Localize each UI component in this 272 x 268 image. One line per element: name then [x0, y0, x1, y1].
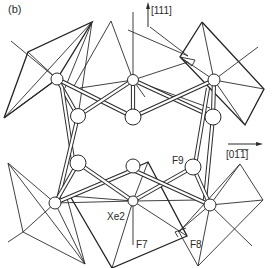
- polyhedron-bottom-right: [175, 164, 263, 266]
- xe-atom-top-right: [208, 74, 220, 86]
- f-atom-bridge-top-right: [205, 109, 221, 125]
- f-atom-bridge-bottom-center: [126, 159, 140, 173]
- polyhedron-top-left: [4, 22, 92, 118]
- axis-011-arrow: [228, 142, 263, 146]
- atom-label-f8: F8: [190, 240, 202, 250]
- panel-label: (b): [8, 4, 21, 15]
- f-atom-bridge-top-center: [125, 109, 141, 125]
- polyhedron-bottom-center: [70, 162, 200, 268]
- polyhedron-top-center: [74, 12, 210, 108]
- xe-atom-bottom-right: [204, 199, 216, 211]
- crystal-structure-diagram: [0, 0, 272, 268]
- atom-label-xe2: Xe2: [107, 212, 125, 222]
- axis-111-arrow: [146, 2, 150, 27]
- xe2-atom: [128, 196, 138, 206]
- atom-label-f9: F9: [172, 156, 184, 166]
- xe-atom-bottom-left: [49, 197, 61, 209]
- bridging-bonds: [55, 79, 214, 205]
- atom-label-f7: F7: [136, 240, 148, 250]
- f9-atom: [185, 159, 201, 175]
- axis-label-111: [111]: [151, 6, 172, 16]
- axis-label-011: [01̅1̅]: [226, 150, 248, 160]
- xe-atom-top-left: [51, 73, 63, 85]
- f-atom-bridge-bottom-left: [70, 155, 86, 171]
- f-atom-bridge-top-left: [71, 109, 86, 124]
- xe-atom-top-center: [128, 75, 139, 86]
